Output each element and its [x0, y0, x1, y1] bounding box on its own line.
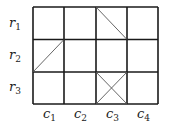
grid-diagram: r1 r2 r3 c1 c2 c3 c4	[0, 0, 169, 126]
col-label-4: c4	[137, 106, 150, 123]
col-label-1: c1	[43, 106, 56, 123]
diagonals	[33, 7, 127, 104]
row-label-2: r2	[9, 47, 21, 64]
diagonal-r1c3	[96, 7, 127, 40]
col-label-3: c3	[106, 106, 119, 123]
diagonal-r2c1	[33, 40, 64, 73]
row-label-1: r1	[9, 15, 21, 32]
grid-lines	[33, 7, 158, 104]
col-labels: c1 c2 c3 c4	[43, 106, 150, 123]
col-label-2: c2	[74, 106, 87, 123]
row-label-3: r3	[9, 79, 21, 96]
row-labels: r1 r2 r3	[9, 15, 21, 96]
